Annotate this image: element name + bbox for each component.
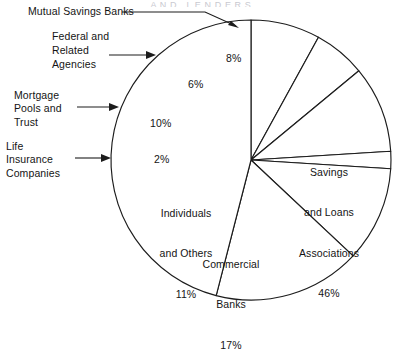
callout-federal-agencies-line3: Agencies	[52, 58, 96, 71]
slice-value-savings-and-loans: 46%	[283, 287, 375, 300]
callout-mutual-savings-banks: Mutual Savings Banks	[28, 5, 134, 18]
slice-value-mutual-savings-banks: 8%	[226, 52, 242, 65]
arrow-head-mortgage-pools	[109, 103, 119, 111]
callout-mortgage-pools-line3: Trust	[14, 116, 38, 129]
slice-label-savings-line3: Associations	[283, 247, 375, 260]
slice-value-life-insurance: 2%	[154, 153, 170, 166]
callout-life-insurance-line2: Insurance	[6, 153, 53, 166]
callout-mortgage-pools-line1: Mortgage	[14, 89, 59, 102]
slice-value-commercial-banks: 17%	[186, 339, 276, 352]
slice-label-commercial-banks: Commercial Banks 17%	[186, 231, 276, 353]
slice-label-commercial-line2: Banks	[186, 298, 276, 311]
slice-label-individuals-line1: Individuals	[143, 207, 229, 220]
callout-federal-agencies-line1: Federal and	[52, 30, 109, 43]
callout-life-insurance-line3: Companies	[6, 167, 60, 180]
slice-label-savings-and-loans: Savings and Loans Associations 46%	[283, 139, 375, 327]
callout-life-insurance-line1: Life	[6, 140, 23, 153]
slice-value-mortgage-pools: 10%	[150, 117, 172, 130]
slice-value-federal-agencies: 6%	[188, 78, 204, 91]
callout-mortgage-pools-line2: Pools and	[14, 102, 62, 115]
slice-label-savings-line1: Savings	[283, 166, 375, 179]
arrow-head-life-insurance	[101, 154, 111, 162]
callout-federal-agencies-line2: Related	[52, 44, 89, 57]
slice-label-savings-line2: and Loans	[283, 206, 375, 219]
slice-label-commercial-line1: Commercial	[186, 258, 276, 271]
